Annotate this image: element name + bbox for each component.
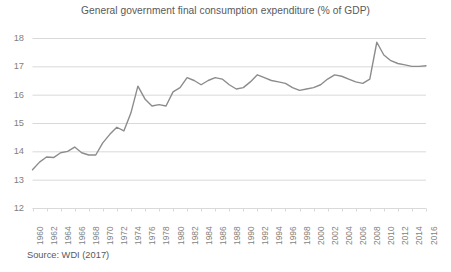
x-axis-tick-label: 2012: [401, 226, 410, 245]
x-axis-tick-label: 1974: [134, 226, 143, 245]
data-series-line: [33, 42, 427, 170]
y-axis-tick-label: 13: [2, 175, 24, 185]
x-axis-tick-label: 2000: [317, 226, 326, 245]
x-axis-tick-label: 1970: [106, 226, 115, 245]
x-axis-tick-label: 1982: [191, 226, 200, 245]
x-axis-tick-label: 1976: [148, 226, 157, 245]
x-axis-tick-label: 2004: [345, 226, 354, 245]
y-axis-tick-label: 18: [2, 33, 24, 43]
x-axis-tick-label: 2006: [359, 226, 368, 245]
x-axis-tick-label: 1960: [36, 226, 45, 245]
x-axis-tick-label: 1966: [78, 226, 87, 245]
x-axis-tick-label: 2010: [387, 226, 396, 245]
x-axis-tick-label: 2016: [430, 226, 439, 245]
x-axis-tick-label: 1994: [275, 226, 284, 245]
x-axis-tick-label: 1992: [261, 226, 270, 245]
x-axis-tick-label: 1996: [289, 226, 298, 245]
x-axis-tick-label: 2002: [331, 226, 340, 245]
source-note: Source: WDI (2017): [27, 250, 109, 260]
y-axis-tick-label: 16: [2, 90, 24, 100]
x-axis-tick-label: 2008: [373, 226, 382, 245]
x-axis-tick-label: 2014: [415, 226, 424, 245]
x-axis-tick-label: 1978: [162, 226, 171, 245]
axis-lines: [33, 209, 427, 212]
x-axis-tick-label: 1962: [50, 226, 59, 245]
x-axis-tick-label: 1990: [247, 226, 256, 245]
y-axis-tick-label: 12: [2, 203, 24, 213]
plot-area: 12131415161718 1960196219641966196819701…: [0, 0, 451, 272]
x-axis-tick-label: 1986: [219, 226, 228, 245]
y-axis-tick-label: 17: [2, 61, 24, 71]
x-axis-tick-label: 1964: [64, 226, 73, 245]
x-axis-tick-label: 1988: [233, 226, 242, 245]
gridlines: [33, 39, 427, 181]
x-axis-tick-label: 1998: [303, 226, 312, 245]
chart-figure: General government final consumption exp…: [0, 0, 451, 272]
y-axis-tick-label: 14: [2, 146, 24, 156]
y-axis-tick-label: 15: [2, 118, 24, 128]
x-axis-tick-label: 1968: [92, 226, 101, 245]
x-axis-tick-label: 1980: [177, 226, 186, 245]
x-axis-tick-label: 1972: [120, 226, 129, 245]
x-axis-tick-label: 1984: [205, 226, 214, 245]
